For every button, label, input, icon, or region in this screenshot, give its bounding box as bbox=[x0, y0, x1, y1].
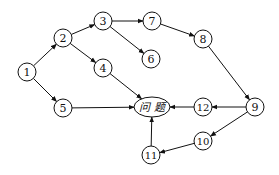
edge-7-to-8 bbox=[160, 24, 194, 36]
node-label: 12 bbox=[197, 102, 210, 113]
node-label: 4 bbox=[100, 62, 107, 75]
node-label: 10 bbox=[197, 136, 210, 147]
edge-11-to-problem bbox=[151, 117, 152, 146]
edge-2-to-4 bbox=[70, 43, 96, 62]
node-label: 6 bbox=[148, 53, 155, 66]
directed-graph: 123456789101112问 题 bbox=[0, 0, 279, 175]
edge-1-to-5 bbox=[33, 78, 56, 101]
node-label: 问 题 bbox=[139, 101, 166, 114]
node-7: 7 bbox=[143, 12, 161, 30]
node-9: 9 bbox=[246, 98, 264, 116]
node-label: 8 bbox=[200, 33, 207, 46]
nodes-group: 123456789101112问 题 bbox=[18, 12, 264, 164]
edge-1-to-2 bbox=[34, 44, 57, 66]
node-12: 12 bbox=[194, 98, 212, 116]
node-6: 6 bbox=[142, 50, 160, 68]
edge-9-to-10 bbox=[211, 112, 248, 136]
node-8: 8 bbox=[194, 30, 212, 48]
node-11: 11 bbox=[142, 146, 160, 164]
edge-8-to-9 bbox=[208, 46, 249, 100]
node-3: 3 bbox=[94, 12, 112, 30]
node-label: 7 bbox=[149, 15, 156, 28]
node-1: 1 bbox=[18, 63, 36, 81]
node-problem: 问 题 bbox=[134, 97, 170, 117]
edge-3-to-6 bbox=[110, 27, 144, 54]
node-label: 5 bbox=[60, 102, 67, 115]
node-label: 1 bbox=[24, 66, 31, 79]
edge-2-to-3 bbox=[71, 25, 94, 35]
node-2: 2 bbox=[54, 29, 72, 47]
node-label: 11 bbox=[145, 150, 158, 161]
node-label: 3 bbox=[100, 15, 107, 28]
edge-4-to-problem bbox=[110, 74, 142, 99]
node-4: 4 bbox=[94, 59, 112, 77]
node-10: 10 bbox=[194, 132, 212, 150]
diagram-canvas: 123456789101112问 题 bbox=[0, 0, 279, 175]
node-label: 2 bbox=[60, 32, 67, 45]
edge-10-to-11 bbox=[160, 143, 195, 152]
node-label: 9 bbox=[252, 101, 259, 114]
node-5: 5 bbox=[54, 99, 72, 117]
edge-5-to-problem bbox=[72, 107, 134, 108]
